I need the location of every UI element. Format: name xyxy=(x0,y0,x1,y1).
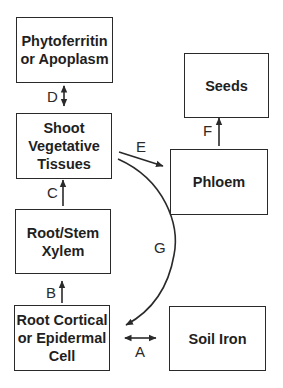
root-cortical-epidermal-cell-box: Root Cortical or Epidermal Cell xyxy=(14,305,110,371)
phytoferritin-apoplasm-box: Phytoferritin or Apoplasm xyxy=(16,17,113,83)
label-f: F xyxy=(203,123,212,138)
label-c: C xyxy=(47,185,58,200)
root-stem-xylem-box: Root/Stem Xylem xyxy=(15,209,111,274)
seeds-box: Seeds xyxy=(184,53,269,118)
label-a: A xyxy=(135,344,145,359)
shoot-vegetative-tissues-box: Shoot Vegetative Tissues xyxy=(16,113,112,179)
label-g: G xyxy=(154,240,166,255)
label-d: D xyxy=(47,89,58,104)
phloem-box: Phloem xyxy=(170,149,268,215)
label-e: E xyxy=(136,139,146,154)
soil-iron-box: Soil Iron xyxy=(169,306,266,371)
arrow-g-icon xyxy=(118,159,175,325)
iron-transport-diagram: Phytoferritin or Apoplasm Shoot Vegetati… xyxy=(0,0,283,388)
label-b: B xyxy=(46,285,56,300)
